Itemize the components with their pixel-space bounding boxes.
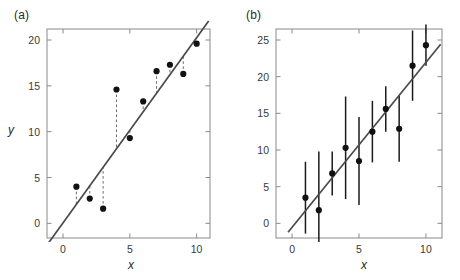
y-tick-label: 15 [28, 80, 40, 92]
x-tick-label: 0 [289, 243, 295, 255]
y-tick-label: 25 [257, 34, 269, 46]
data-point [194, 41, 200, 47]
y-tick-label: 20 [28, 34, 40, 46]
y-tick-label: 15 [257, 107, 269, 119]
regression-line [288, 44, 441, 232]
data-point [396, 126, 402, 132]
figure-container: (a) y x 051005101520 (b) x 0510051015202… [0, 0, 460, 280]
data-point [73, 184, 79, 190]
data-point [329, 170, 335, 176]
y-tick-label: 5 [34, 172, 40, 184]
x-tick-label: 10 [191, 243, 203, 255]
plot-area [48, 21, 208, 243]
data-point [409, 63, 415, 69]
plot-area [288, 25, 441, 269]
data-point [356, 158, 362, 164]
axis-ticks: 05100510152025 [257, 29, 442, 255]
y-tick-label: 10 [257, 144, 269, 156]
x-tick-label: 10 [420, 243, 432, 255]
data-point [383, 106, 389, 112]
data-point [316, 207, 322, 213]
data-point [140, 98, 146, 104]
data-point [369, 129, 375, 135]
panel-b: (b) x 05100510152025 [228, 0, 458, 280]
data-points [73, 41, 199, 212]
y-tick-label: 0 [263, 217, 269, 229]
data-point [423, 42, 429, 48]
data-point [167, 62, 173, 68]
data-point [180, 71, 186, 77]
x-tick-label: 0 [60, 243, 66, 255]
error-bars [305, 25, 425, 269]
regression-line [48, 21, 208, 243]
panel-b-plot: 05100510152025 [228, 0, 460, 280]
y-tick-label: 20 [257, 71, 269, 83]
data-point [100, 206, 106, 212]
data-point [302, 195, 308, 201]
x-tick-label: 5 [127, 243, 133, 255]
x-tick-label: 5 [356, 243, 362, 255]
data-points [302, 42, 429, 213]
data-point [127, 135, 133, 141]
data-point [343, 145, 349, 151]
panel-a-plot: 051005101520 [0, 0, 230, 280]
data-point [113, 86, 119, 92]
y-tick-label: 5 [263, 181, 269, 193]
y-tick-label: 10 [28, 126, 40, 138]
y-tick-label: 0 [34, 217, 40, 229]
data-point [153, 68, 159, 74]
data-point [87, 195, 93, 201]
panel-a: (a) y x 051005101520 [0, 0, 230, 280]
axis-ticks: 051005101520 [28, 29, 210, 255]
